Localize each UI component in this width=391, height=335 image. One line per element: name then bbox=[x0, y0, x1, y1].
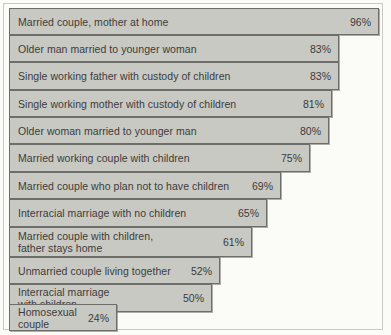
bar-category-label: Interracial marriage with no children bbox=[18, 207, 186, 219]
bar-row: Married couple who plan not to have chil… bbox=[9, 172, 281, 199]
bar-row: Single working mother with custody of ch… bbox=[9, 90, 332, 117]
bar-value-label: 81% bbox=[303, 98, 324, 110]
bar-row: Married couple, mother at home96% bbox=[9, 8, 379, 35]
bar-value-label: 69% bbox=[252, 180, 273, 192]
bar-category-label: Single working mother with custody of ch… bbox=[18, 98, 236, 110]
bar-row: Interracial marriage with no children65% bbox=[9, 199, 267, 227]
bar-row: Married couple with children, father sta… bbox=[9, 227, 252, 257]
bar-value-label: 80% bbox=[300, 125, 321, 137]
bar-category-label: Single working father with custody of ch… bbox=[18, 70, 230, 82]
bar-chart-figure: Married couple, mother at home96%Older m… bbox=[0, 0, 391, 335]
bar-value-label: 24% bbox=[88, 312, 109, 324]
bar-value-label: 83% bbox=[310, 43, 331, 55]
bar-category-label: Older woman married to younger man bbox=[18, 125, 197, 137]
bar-value-label: 50% bbox=[183, 292, 204, 304]
bar-series-container: Married couple, mother at home96%Older m… bbox=[0, 0, 391, 335]
bar-category-label: Married working couple with children bbox=[18, 152, 190, 164]
bar-category-label: Homosexual couple bbox=[18, 306, 77, 330]
bar-category-label: Married couple, mother at home bbox=[18, 16, 168, 28]
bar-value-label: 65% bbox=[238, 207, 259, 219]
bar-value-label: 61% bbox=[223, 236, 244, 248]
bar-category-label: Married couple who plan not to have chil… bbox=[18, 180, 229, 192]
bar-value-label: 52% bbox=[191, 265, 212, 277]
bar-category-label: Married couple with children, father sta… bbox=[18, 230, 153, 254]
bar-row: Single working father with custody of ch… bbox=[9, 62, 339, 90]
bar-category-label: Unmarried couple living together bbox=[18, 265, 171, 277]
bar-row: Older man married to younger woman83% bbox=[9, 35, 339, 62]
bar-row: Married working couple with children75% bbox=[9, 144, 310, 172]
bar-category-label: Older man married to younger woman bbox=[18, 43, 197, 55]
bar-value-label: 75% bbox=[281, 152, 302, 164]
bar-value-label: 96% bbox=[350, 16, 371, 28]
bar-value-label: 83% bbox=[310, 70, 331, 82]
bar-row: Unmarried couple living together52% bbox=[9, 257, 220, 284]
bar-row: Older woman married to younger man80% bbox=[9, 117, 329, 144]
bar-row: Homosexual couple24% bbox=[9, 304, 117, 331]
